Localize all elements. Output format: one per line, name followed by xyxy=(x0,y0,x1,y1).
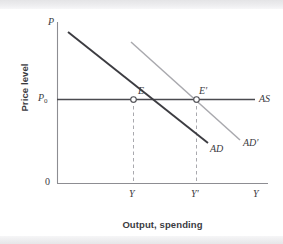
x-tick-label-Y-prime: Y′ xyxy=(191,188,199,199)
price-level-p0-label: P0 xyxy=(38,92,48,103)
x-tick-label-Y: Y xyxy=(129,188,135,199)
price-level-p0-subscript: 0 xyxy=(44,97,48,105)
price-axis-symbol: P xyxy=(48,16,54,27)
x-axis-title: Output, spending xyxy=(57,219,268,230)
plot-canvas xyxy=(0,0,283,244)
y-axis-title: Price level xyxy=(19,43,30,133)
output-axis-symbol: Y xyxy=(253,188,259,199)
aggregate-demand-label: AD xyxy=(210,143,223,154)
aggregate-demand-new-label: AD′ xyxy=(243,137,259,148)
equilibrium-point-E xyxy=(131,97,137,103)
equilibrium-label-E-prime: E′ xyxy=(199,85,207,96)
ad-as-diagram: Price level Output, spending P P0 0 E E′… xyxy=(0,0,283,244)
aggregate-supply-label: AS xyxy=(259,93,270,104)
equilibrium-label-E: E xyxy=(138,85,144,96)
origin-label: 0 xyxy=(45,176,50,187)
equilibrium-point-E-prime xyxy=(194,97,200,103)
